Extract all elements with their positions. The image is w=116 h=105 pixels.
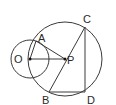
label-a: A	[38, 32, 46, 44]
label-d: D	[87, 94, 95, 105]
label-o: O	[14, 53, 23, 65]
label-c: C	[83, 13, 91, 25]
point-o-dot	[29, 58, 32, 61]
geometry-diagram: O P A B C D	[0, 0, 116, 105]
label-p: P	[67, 54, 74, 66]
label-b: B	[42, 94, 49, 105]
